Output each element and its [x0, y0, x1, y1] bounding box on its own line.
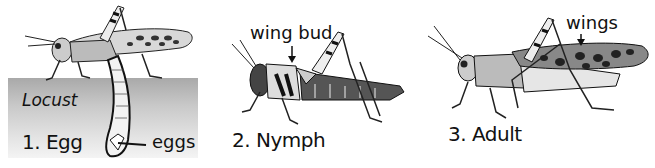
stage-label-egg: 1. Egg [22, 130, 82, 154]
stage-label-adult: 3. Adult [448, 122, 522, 146]
callout-eggs: eggs [152, 131, 195, 152]
stage-label-nymph: 2. Nymph [232, 128, 325, 152]
panel-adult-stage: wings 3. Adult [420, 0, 655, 168]
callout-wings: wings [566, 12, 618, 33]
callout-wing-bud: wing bud [250, 22, 333, 43]
panel-nymph-stage: wing bud 2. Nymph [220, 0, 420, 168]
panel-egg-stage: Locust 1. Egg eggs [0, 0, 220, 168]
species-label: Locust [22, 90, 78, 110]
